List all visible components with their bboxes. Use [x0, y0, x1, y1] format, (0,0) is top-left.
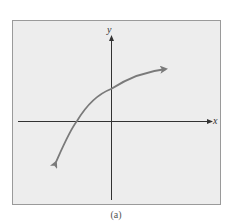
- y-axis-label: y: [106, 24, 112, 35]
- graph-figure: y x: [0, 0, 232, 224]
- figure-caption: (a): [0, 209, 232, 220]
- graph-panel: [13, 21, 221, 205]
- x-axis-label: x: [212, 115, 218, 126]
